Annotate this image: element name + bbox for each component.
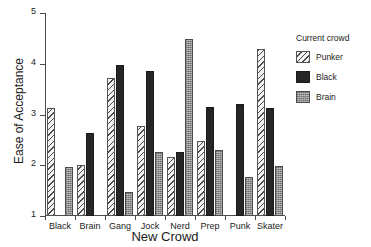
bar-nerd-punker (167, 157, 175, 216)
legend-label-brain: Brain (316, 92, 336, 102)
y-axis-tick-label: 2 (31, 158, 36, 168)
bar-punk-black (236, 104, 244, 216)
bar-prep-punker (197, 141, 205, 216)
y-axis-line (45, 13, 46, 216)
chart-title: Middle School Students (45, 0, 285, 3)
legend-swatch-punker (296, 51, 310, 63)
legend-swatch-brain (296, 91, 310, 103)
legend-item-brain[interactable]: Brain (296, 89, 371, 105)
plot-area: 12345 BlackBrainGangJockNerdPrepPunkSkat… (45, 13, 285, 216)
bar-prep-black (206, 107, 214, 216)
y-axis-tick: 4 (40, 64, 45, 65)
bar-skater-punker (257, 49, 265, 216)
bar-prep-brain (215, 150, 223, 216)
x-axis-title: New Crowd (45, 229, 285, 244)
y-axis-title: Ease of Acceptance (12, 36, 26, 186)
x-axis-tick (255, 216, 256, 220)
y-axis-tick-label: 5 (31, 6, 36, 16)
bar-gang-black (116, 65, 124, 216)
y-axis-tick-label: 1 (31, 209, 36, 219)
bar-gang-brain (125, 192, 133, 216)
bar-jock-black (146, 71, 154, 216)
x-axis-tick (105, 216, 106, 220)
legend-label-black: Black (316, 72, 337, 82)
y-axis-tick: 2 (40, 165, 45, 166)
y-axis-tick-label: 4 (31, 57, 36, 67)
bar-skater-brain (275, 166, 283, 216)
x-axis-tick (135, 216, 136, 220)
legend-items: PunkerBlackBrain (296, 49, 371, 105)
x-axis-tick (225, 216, 226, 220)
legend-item-punker[interactable]: Punker (296, 49, 371, 65)
x-axis-tick (75, 216, 76, 220)
y-axis-tick: 3 (40, 115, 45, 116)
legend: Current crowd PunkerBlackBrain (296, 33, 371, 109)
y-axis-tick: 5 (40, 13, 45, 14)
bar-nerd-brain (185, 39, 193, 216)
legend-item-black[interactable]: Black (296, 69, 371, 85)
bar-nerd-black (176, 152, 184, 216)
x-axis-tick (195, 216, 196, 220)
y-axis-tick-label: 3 (31, 108, 36, 118)
bar-jock-brain (155, 152, 163, 216)
bar-chart-figure: Middle School Students 12345 BlackBrainG… (0, 0, 371, 247)
bar-brain-black (86, 133, 94, 216)
x-axis-tick (165, 216, 166, 220)
x-axis-tick (285, 216, 286, 220)
bar-punk-brain (245, 177, 253, 216)
legend-swatch-black (296, 71, 310, 83)
x-axis-tick (45, 216, 46, 220)
bar-black-brain (65, 167, 73, 216)
legend-title: Current crowd (296, 33, 371, 43)
bar-jock-punker (137, 126, 145, 216)
bar-brain-punker (77, 165, 85, 216)
legend-label-punker: Punker (316, 52, 343, 62)
bar-gang-punker (107, 78, 115, 216)
bar-black-punker (47, 108, 55, 216)
bar-skater-black (266, 108, 274, 216)
